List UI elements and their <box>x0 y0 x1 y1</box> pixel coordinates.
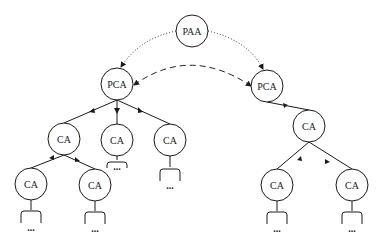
node-ca-r1b: CA <box>336 169 368 201</box>
svg-text:CA: CA <box>57 134 72 145</box>
svg-text:CA: CA <box>302 121 317 132</box>
svg-text:...: ... <box>348 223 356 234</box>
node-ca-l3: CA <box>154 124 186 156</box>
node-ca-l1b: CA <box>79 169 111 201</box>
svg-text:...: ... <box>273 223 281 234</box>
node-ca-l2: CA <box>101 124 133 156</box>
continuation-bracket: ... <box>267 201 287 234</box>
edge-ca-r1-ca-r1b <box>309 142 352 169</box>
svg-text:CA: CA <box>24 179 39 190</box>
edge-pca-left-ca-l3 <box>117 100 170 124</box>
continuation-bracket: ... <box>107 156 127 172</box>
svg-text:...: ... <box>166 180 174 191</box>
node-paa: PAA <box>176 15 208 47</box>
arrow-icon <box>297 156 302 161</box>
arrow-icon <box>114 108 120 114</box>
continuation-bracket: ... <box>160 156 180 191</box>
edge-ca-r1-ca-r1a <box>277 142 309 169</box>
continuation-bracket: ... <box>85 201 105 234</box>
continuation-bracket: ... <box>342 201 362 234</box>
svg-text:CA: CA <box>163 135 178 146</box>
arrow-icon <box>49 155 54 160</box>
svg-text:CA: CA <box>270 180 285 191</box>
svg-text:PCA: PCA <box>107 79 127 90</box>
svg-text:PAA: PAA <box>182 26 202 37</box>
node-ca-r1a: CA <box>261 169 293 201</box>
node-ca-l1a: CA <box>15 168 47 200</box>
svg-text:...: ... <box>27 222 35 233</box>
arrow-icon <box>283 103 288 108</box>
edge-ca-l1-ca-l1b <box>64 155 95 169</box>
edge-paa-to-pca-right <box>208 31 263 69</box>
arrow-icon <box>325 159 330 164</box>
svg-text:PCA: PCA <box>257 81 277 92</box>
svg-text:...: ... <box>91 223 99 234</box>
edge-paa-to-pca-left <box>121 31 176 67</box>
svg-text:CA: CA <box>88 180 103 191</box>
node-pca-left: PCA <box>101 68 133 100</box>
node-ca-l1: CA <box>48 123 80 155</box>
svg-text:CA: CA <box>345 180 360 191</box>
edge-ca-l1-ca-l1a <box>31 155 64 168</box>
hierarchy-diagram: ... ... ... ... ... ... PAA PCA PCA CA C… <box>0 0 385 246</box>
svg-text:...: ... <box>113 161 121 172</box>
node-pca-right: PCA <box>251 70 283 102</box>
arrow-icon <box>138 107 143 113</box>
svg-text:CA: CA <box>110 135 125 146</box>
edge-pca-left-pca-right <box>134 65 251 86</box>
arrow-icon <box>75 157 80 162</box>
continuation-bracket: ... <box>21 200 41 233</box>
edge-pca-right-ca-r1 <box>267 102 309 110</box>
node-ca-r1: CA <box>293 110 325 142</box>
